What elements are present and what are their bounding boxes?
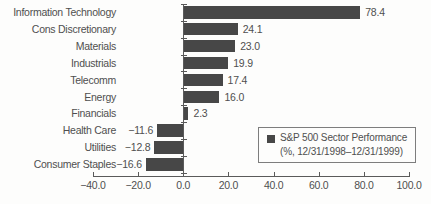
bar-energy bbox=[183, 91, 219, 104]
x-tick bbox=[364, 172, 365, 177]
category-label-materials: Materials bbox=[0, 40, 116, 53]
category-tick bbox=[181, 21, 187, 22]
category-tick bbox=[181, 55, 187, 56]
x-tick-label: 40.0 bbox=[254, 179, 294, 191]
x-tick bbox=[319, 172, 320, 177]
bar-telecomm bbox=[183, 74, 222, 87]
value-label-cons-discretionary: 24.1 bbox=[243, 23, 263, 36]
value-label-materials: 23.0 bbox=[240, 40, 260, 53]
value-label-consumer-staples: −16.6 bbox=[82, 158, 142, 171]
category-label-financials: Financials bbox=[0, 107, 116, 120]
legend-swatch-icon bbox=[267, 135, 275, 143]
x-tick-label: −20.0 bbox=[118, 179, 158, 191]
category-tick bbox=[181, 71, 187, 72]
x-tick bbox=[138, 172, 139, 177]
value-label-information-technology: 78.4 bbox=[365, 6, 385, 19]
category-tick bbox=[181, 139, 187, 140]
category-tick bbox=[181, 88, 187, 89]
value-label-health-care: −11.6 bbox=[93, 124, 153, 137]
bar-materials bbox=[183, 40, 235, 53]
category-axis bbox=[183, 4, 184, 177]
x-tick-label: 0.0 bbox=[163, 179, 203, 191]
x-tick-label: 100.0 bbox=[389, 179, 429, 191]
category-tick bbox=[181, 105, 187, 106]
value-label-financials: 2.3 bbox=[194, 107, 208, 120]
bar-utilities bbox=[154, 141, 183, 154]
sector-performance-chart: Information Technology78.4Cons Discretio… bbox=[0, 0, 431, 204]
legend: S&P 500 Sector Performance (%, 12/31/199… bbox=[258, 127, 416, 163]
x-tick bbox=[228, 172, 229, 177]
value-axis bbox=[93, 176, 410, 177]
value-label-energy: 16.0 bbox=[224, 91, 244, 104]
x-tick-label: 20.0 bbox=[208, 179, 248, 191]
x-tick bbox=[409, 172, 410, 177]
legend-title: S&P 500 Sector Performance bbox=[280, 132, 407, 143]
category-tick bbox=[181, 4, 187, 5]
bar-consumer-staples bbox=[146, 158, 184, 171]
category-label-telecomm: Telecomm bbox=[0, 74, 116, 87]
category-label-cons-discretionary: Cons Discretionary bbox=[0, 23, 116, 36]
x-tick bbox=[183, 172, 184, 177]
category-label-industrials: Industrials bbox=[0, 57, 116, 70]
bar-industrials bbox=[183, 57, 228, 70]
category-label-information-technology: Information Technology bbox=[0, 6, 116, 19]
x-tick-label: −40.0 bbox=[73, 179, 113, 191]
category-tick bbox=[181, 38, 187, 39]
bar-information-technology bbox=[183, 6, 360, 19]
value-label-industrials: 19.9 bbox=[233, 57, 253, 70]
value-label-utilities: −12.8 bbox=[90, 141, 150, 154]
category-label-energy: Energy bbox=[0, 91, 116, 104]
bar-cons-discretionary bbox=[183, 23, 237, 36]
category-tick bbox=[181, 156, 187, 157]
value-label-telecomm: 17.4 bbox=[228, 74, 248, 87]
x-tick bbox=[93, 172, 94, 177]
x-tick-label: 60.0 bbox=[299, 179, 339, 191]
legend-subtitle: (%, 12/31/1998–12/31/1999) bbox=[280, 146, 403, 157]
category-tick bbox=[181, 122, 187, 123]
bar-health-care bbox=[157, 124, 183, 137]
x-tick-label: 80.0 bbox=[344, 179, 384, 191]
x-tick bbox=[274, 172, 275, 177]
